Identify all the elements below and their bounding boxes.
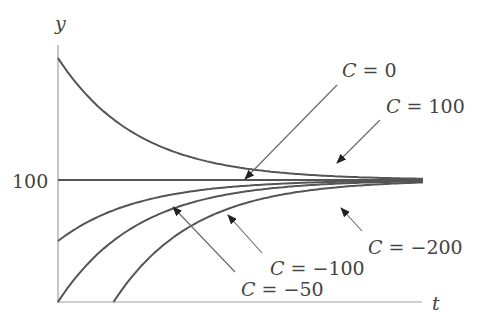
y-axis-label: y (54, 12, 66, 34)
curves (58, 58, 423, 302)
curve-c-50 (58, 181, 423, 241)
arrow-cm200 (341, 208, 362, 231)
label-c100: C=100 (386, 95, 465, 117)
label-cm50: C=−50 (241, 278, 324, 300)
x-axis-label: t (432, 292, 440, 314)
label-cm200: C=−200 (368, 236, 463, 258)
label-c0: C=0 (342, 59, 397, 81)
chart: y t 100 C=0 C=100 C=−200 C=−100 C=−50 (0, 0, 480, 320)
arrow-cm100 (228, 215, 262, 253)
arrow-c0 (245, 85, 337, 179)
tick-100: 100 (12, 170, 48, 192)
arrow-cm50 (173, 207, 235, 272)
label-cm100: C=−100 (270, 257, 365, 279)
arrow-c100 (337, 120, 380, 163)
